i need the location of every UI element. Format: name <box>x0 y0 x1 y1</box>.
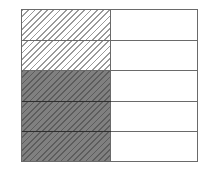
grid-row-3 <box>22 71 197 101</box>
cell-dark-hatched <box>22 71 111 101</box>
cell-light-hatched <box>22 41 111 70</box>
fraction-grid <box>21 9 198 162</box>
cell-dark-hatched <box>22 102 111 131</box>
cell-dark-hatched <box>22 132 111 161</box>
cell-blank <box>111 10 197 40</box>
cell-blank <box>111 102 197 131</box>
cell-blank <box>111 71 197 101</box>
grid-row-5 <box>22 132 197 161</box>
grid-row-1 <box>22 10 197 40</box>
cell-blank <box>111 132 197 161</box>
cell-light-hatched <box>22 10 111 40</box>
grid-row-4 <box>22 102 197 131</box>
cell-blank <box>111 41 197 70</box>
grid-row-2 <box>22 41 197 70</box>
